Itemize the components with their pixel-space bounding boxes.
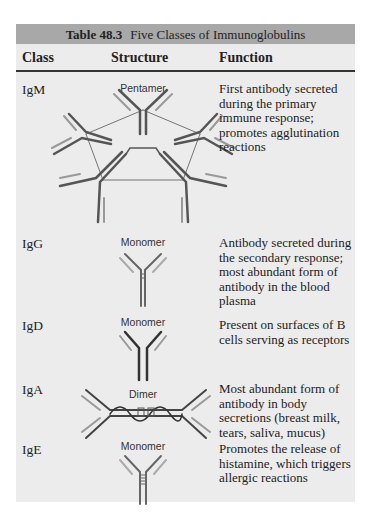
table-row-iga: IgA Dimer Most abundant form of antibody… [16,382,355,446]
function-cell: Antibody secreted during the secondary r… [219,236,353,309]
function-cell: Promotes the release of histamine, which… [219,442,353,486]
table-caption: Table 48.3Five Classes of Immunoglobulin… [16,24,355,44]
monomer-igg-icon [113,250,173,310]
table-row-igg: IgG Monomer Antibody secreted during the… [16,236,355,316]
table-row-igm: IgM Pentamer [16,82,355,232]
column-header-function: Function [219,50,273,66]
function-cell: Present on surfaces of B cells serving a… [219,318,353,347]
class-cell: IgE [22,442,42,458]
class-cell: IgD [22,318,43,334]
table-title: Five Classes of Immunoglobulins [130,27,305,42]
column-header-class: Class [22,50,54,66]
table-row-igd: IgD Monomer Present on surfaces of B cel… [16,318,355,384]
structure-label: Monomer [121,440,165,452]
structure-label: Monomer [121,236,165,248]
function-cell: First antibody secreted during the prima… [219,82,353,155]
table-number: Table 48.3 [66,27,123,42]
immunoglobulin-table: Table 48.3Five Classes of Immunoglobulin… [16,24,355,502]
monomer-ige-icon [113,454,173,506]
table-header-row: Class Structure Function [16,44,355,72]
class-cell: IgA [22,382,43,398]
table-row-ige: IgE Monomer Promotes the release of hist… [16,442,355,502]
function-cell: Most abundant form of antibody in body s… [219,382,353,440]
column-header-structure: Structure [111,50,168,66]
dimer-icon [76,384,216,444]
class-cell: IgG [22,236,43,252]
structure-label: Monomer [121,316,165,328]
monomer-igd-icon [113,330,173,386]
